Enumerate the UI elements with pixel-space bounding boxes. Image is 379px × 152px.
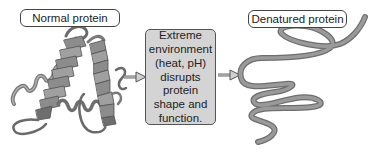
process-line: disrupts [149,71,212,85]
process-line: (heat, pH) [149,57,212,71]
arrow-right-icon [218,70,240,80]
process-line: function. [149,112,212,126]
arrow-right-icon [124,72,146,82]
process-line: shape and [149,98,212,112]
folded-protein-icon [13,27,126,134]
denatured-protein-label: Denatured protein [248,10,347,28]
process-line: protein [149,84,212,98]
process-text: Extreme environment (heat, pH) disrupts … [149,29,212,126]
process-line: environment [149,43,212,57]
denaturation-process-box: Extreme environment (heat, pH) disrupts … [145,29,216,125]
process-line: Extreme [149,29,212,43]
unfolded-protein-icon [240,17,365,142]
normal-protein-label: Normal protein [20,9,120,27]
